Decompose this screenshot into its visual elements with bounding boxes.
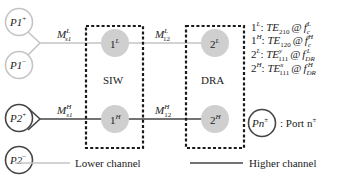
coupling-m12-lower: ML12	[154, 27, 171, 43]
port-p2-plus: P2+	[6, 105, 33, 132]
resonator-2-higher: 2H	[201, 105, 229, 133]
port-p2-minus: P2−	[6, 147, 33, 174]
coupling-m12-higher: MH12	[154, 103, 172, 119]
dra-label: DRA	[201, 74, 224, 86]
coupling-ms1-lower: MLs1	[56, 27, 71, 43]
legend-higher-label: Higher channel	[249, 157, 317, 169]
port-p1-minus: P1−	[6, 52, 33, 79]
port-p1-plus: P1+	[6, 9, 33, 36]
svg-text:: Port n±: : Port n±	[280, 116, 316, 129]
resonator-1-lower: 1L	[101, 29, 129, 57]
mode-line-4: 2H: TEx111@fDRH	[251, 61, 317, 77]
resonator-1-higher: 1H	[101, 105, 129, 133]
resonator-2-lower: 2L	[201, 29, 229, 57]
port-legend: Pn± : Port n±	[249, 110, 317, 137]
coupling-ms1-higher: MHs1	[56, 103, 72, 119]
siw-label: SIW	[103, 74, 124, 86]
coupling-diagram: P1+ P1− P2+ P2− MLs1 MHs1 ML12 MH12 1L 1…	[0, 0, 345, 178]
mode-legend: 1L: TE210@fcL 1H: TE120@fcH 2L: TEy111@f…	[251, 20, 317, 77]
channel-legend: Lower channel Higher channel	[15, 157, 317, 169]
legend-lower-label: Lower channel	[75, 157, 141, 169]
